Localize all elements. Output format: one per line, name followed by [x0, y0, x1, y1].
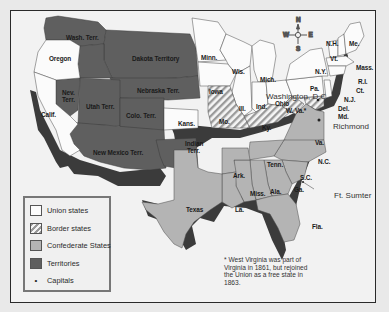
label-ri: R.I.	[358, 78, 368, 85]
label-la: La.	[235, 206, 244, 213]
label-washington-dc: Washington, D.C.	[266, 92, 328, 101]
label-wash-terr: Wash. Terr.	[66, 34, 99, 41]
label-dakota-territory: Dakota Territory	[132, 55, 180, 63]
label-indian-terr-1: Indian	[185, 140, 203, 147]
label-ohio: Ohio	[275, 100, 289, 107]
label-ala: Ala.	[270, 188, 282, 195]
region-maine	[344, 22, 364, 54]
legend-label-confederate: Confederate States	[47, 241, 111, 250]
legend-label-territories: Territories	[47, 259, 79, 268]
capital-dot-icon: •	[30, 276, 42, 285]
label-md: Md.	[338, 113, 349, 120]
legend-label-border: Border states	[47, 224, 91, 233]
label-nj: N.J.	[344, 96, 356, 103]
label-calif: Calif.	[41, 111, 56, 118]
label-ind: Ind.	[256, 103, 267, 110]
label-richmond: Richmond	[333, 122, 369, 131]
ft-sumter-pointer	[303, 182, 314, 189]
label-w-va: W. Va.*	[286, 107, 307, 114]
legend-item-border: Border states	[30, 220, 104, 238]
label-nh: N.H.	[326, 40, 339, 47]
label-sc: S.C.	[300, 174, 312, 181]
label-indian-terr-2: Terr.	[187, 147, 200, 154]
union-swatch-icon	[30, 205, 42, 216]
label-miss: Miss.	[250, 190, 266, 197]
compass-n: N	[296, 16, 301, 23]
label-wis: Wis.	[232, 68, 245, 75]
label-ct: Ct.	[356, 87, 365, 94]
confederate-swatch-icon	[30, 240, 42, 251]
label-vt: Vt.	[330, 55, 338, 62]
label-utah-terr: Utah Terr.	[86, 103, 115, 110]
compass-w: W	[283, 31, 290, 38]
label-nev-terr-2: Terr.	[62, 96, 75, 103]
label-ark: Ark.	[233, 172, 245, 179]
label-me: Me.	[349, 40, 360, 47]
label-fla: Fla.	[312, 223, 323, 230]
label-nev-terr-1: Nev.	[62, 89, 75, 96]
label-iowa: Iowa	[209, 88, 223, 95]
border-swatch-icon	[30, 223, 42, 234]
label-texas: Texas	[186, 206, 204, 213]
label-colo-terr: Colo. Terr.	[126, 112, 156, 119]
footnote-west-virginia: * West Virginia was part of Virginia in …	[224, 256, 314, 286]
map-legend: Union states Border states Confederate S…	[23, 196, 111, 292]
label-nc: N.C.	[318, 158, 331, 165]
region-new-york	[286, 48, 328, 80]
label-ga: Ga.	[294, 186, 304, 193]
ft-sumter-icon	[302, 181, 304, 183]
label-tenn: Tenn.	[267, 161, 283, 168]
legend-item-capitals: • Capitals	[30, 272, 104, 290]
compass-s: S	[296, 45, 301, 52]
capital-richmond-icon	[318, 119, 321, 122]
label-ny: N.Y.	[315, 68, 327, 75]
legend-item-union: Union states	[30, 202, 104, 220]
region-utah-territory	[78, 78, 120, 126]
label-oregon: Oregon	[49, 55, 71, 63]
legend-item-territories: Territories	[30, 255, 104, 273]
legend-item-confederate: Confederate States	[30, 237, 104, 255]
label-mass: Mass.	[356, 64, 374, 71]
label-ill: Ill.	[239, 105, 246, 112]
legend-label-capitals: Capitals	[47, 276, 74, 285]
label-mich: Mich.	[260, 76, 276, 83]
label-del: Del.	[338, 105, 350, 112]
territory-swatch-icon	[30, 258, 42, 269]
label-kans: Kans.	[178, 120, 195, 127]
label-va: Va.	[315, 139, 324, 146]
label-ky: Ky.	[262, 124, 271, 132]
compass-rose: N S E W	[283, 16, 314, 52]
label-nebraska-terr: Nebraska Terr.	[137, 87, 180, 94]
label-ft-sumter: Ft. Sumter	[334, 191, 372, 200]
label-minn: Minn.	[201, 54, 218, 61]
label-new-mexico-terr: New Mexico Terr.	[93, 149, 143, 156]
compass-e: E	[309, 31, 314, 38]
legend-label-union: Union states	[47, 206, 88, 215]
label-pa: Pa.	[310, 85, 320, 92]
label-mo: Mo.	[219, 118, 230, 125]
